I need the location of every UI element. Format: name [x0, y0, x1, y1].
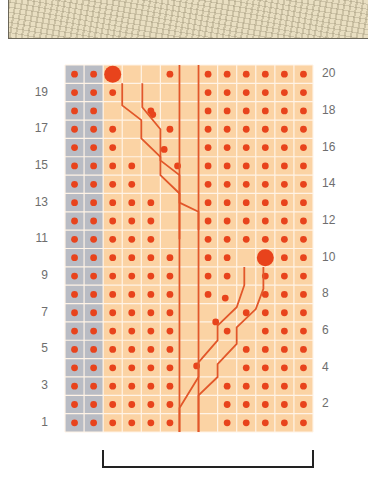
purl-dot-icon — [71, 144, 78, 151]
purl-dot-icon — [90, 107, 97, 114]
purl-dot-icon — [147, 401, 154, 408]
purl-dot-icon — [71, 401, 78, 408]
purl-dot-icon — [262, 309, 269, 316]
row-number-label: 5 — [22, 341, 48, 355]
purl-dot-icon — [147, 419, 154, 426]
purl-dot-icon — [205, 199, 212, 206]
purl-dot-icon — [300, 383, 307, 390]
purl-dot-icon — [224, 181, 231, 188]
purl-dot-icon — [205, 236, 212, 243]
purl-dot-icon — [90, 89, 97, 96]
purl-dot-icon — [224, 199, 231, 206]
purl-dot-icon — [300, 71, 307, 78]
purl-dot-icon — [205, 254, 212, 261]
purl-dot-icon — [71, 71, 78, 78]
purl-dot-icon — [167, 291, 174, 298]
row-number-label: 13 — [22, 195, 48, 209]
purl-dot-icon — [205, 181, 212, 188]
purl-dot-icon — [224, 236, 231, 243]
purl-dot-icon — [90, 254, 97, 261]
purl-dot-icon — [281, 144, 288, 151]
purl-dot-icon — [147, 273, 154, 280]
purl-dot-icon — [262, 419, 269, 426]
purl-dot-icon — [167, 254, 174, 261]
purl-dot-icon — [90, 364, 97, 371]
purl-dot-icon — [243, 107, 250, 114]
purl-dot-icon — [205, 163, 212, 170]
purl-dot-icon — [224, 328, 231, 335]
purl-dot-icon — [128, 383, 135, 390]
purl-dot-icon — [300, 236, 307, 243]
purl-dot-icon — [300, 346, 307, 353]
purl-dot-icon — [262, 218, 269, 225]
purl-dot-icon — [300, 364, 307, 371]
purl-dot-icon — [128, 163, 135, 170]
purl-dot-icon — [300, 254, 307, 261]
purl-dot-icon — [262, 126, 269, 133]
purl-dot-icon — [71, 254, 78, 261]
purl-dot-icon — [128, 401, 135, 408]
purl-dot-icon — [128, 181, 135, 188]
purl-dot-icon — [147, 364, 154, 371]
purl-dot-icon — [243, 383, 250, 390]
purl-dot-icon — [300, 328, 307, 335]
purl-dot-icon — [128, 273, 135, 280]
purl-dot-icon — [71, 364, 78, 371]
purl-dot-icon — [262, 401, 269, 408]
purl-dot-icon — [90, 328, 97, 335]
purl-dot-icon — [224, 254, 231, 261]
purl-dot-icon — [109, 163, 116, 170]
purl-dot-icon — [109, 328, 116, 335]
purl-dot-icon — [90, 71, 97, 78]
purl-dot-icon — [128, 346, 135, 353]
purl-dot-icon — [90, 291, 97, 298]
purl-dot-icon — [281, 419, 288, 426]
purl-dot-icon — [167, 328, 174, 335]
purl-dot-icon — [224, 218, 231, 225]
purl-dot-icon — [300, 199, 307, 206]
purl-dot-icon — [128, 218, 135, 225]
purl-dot-icon — [243, 218, 250, 225]
purl-dot-icon — [167, 126, 174, 133]
purl-dot-icon — [205, 218, 212, 225]
purl-dot-icon — [147, 291, 154, 298]
purl-dot-icon — [262, 107, 269, 114]
purl-dot-icon — [205, 291, 212, 298]
purl-dot-icon — [281, 218, 288, 225]
purl-dot-icon — [161, 146, 168, 153]
purl-dot-icon — [281, 383, 288, 390]
purl-dot-icon — [90, 199, 97, 206]
row-number-label: 4 — [322, 360, 329, 374]
purl-dot-icon — [205, 144, 212, 151]
row-number-label: 2 — [322, 396, 329, 410]
row-number-label: 9 — [22, 268, 48, 282]
purl-dot-icon — [300, 89, 307, 96]
purl-dot-icon — [71, 236, 78, 243]
purl-dot-icon — [90, 346, 97, 353]
purl-dot-icon — [90, 163, 97, 170]
purl-dot-icon — [300, 107, 307, 114]
purl-dot-icon — [109, 309, 116, 316]
purl-dot-icon — [243, 71, 250, 78]
row-number-label: 17 — [22, 121, 48, 135]
purl-dot-icon — [109, 401, 116, 408]
purl-dot-icon — [109, 273, 116, 280]
purl-dot-icon — [243, 419, 250, 426]
row-number-label: 3 — [22, 378, 48, 392]
purl-dot-icon — [128, 364, 135, 371]
purl-dot-icon — [167, 346, 174, 353]
purl-dot-icon — [281, 364, 288, 371]
purl-dot-icon — [71, 107, 78, 114]
purl-dot-icon — [167, 419, 174, 426]
purl-dot-icon — [224, 107, 231, 114]
purl-dot-icon — [300, 291, 307, 298]
purl-dot-icon — [167, 71, 174, 78]
purl-dot-icon — [281, 71, 288, 78]
purl-dot-icon — [243, 144, 250, 151]
row-number-label: 14 — [322, 176, 335, 190]
purl-dot-icon — [71, 199, 78, 206]
purl-dot-icon — [262, 346, 269, 353]
purl-dot-icon — [243, 163, 250, 170]
purl-dot-icon — [147, 328, 154, 335]
purl-dot-icon — [243, 199, 250, 206]
